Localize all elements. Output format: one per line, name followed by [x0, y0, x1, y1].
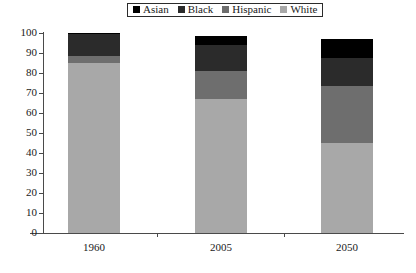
y-tick-label: 40 [7, 147, 37, 158]
x-tick-label-1960: 1960 [64, 242, 124, 253]
y-tick-label: 60 [7, 107, 37, 118]
y-tick-mark [39, 193, 43, 194]
x-tick-mark [157, 233, 158, 237]
legend-item-asian[interactable]: Asian [133, 4, 169, 15]
legend-label: Asian [143, 4, 169, 15]
bar-segment-1960-asian[interactable] [68, 33, 120, 34]
y-tick-mark [39, 73, 43, 74]
x-tick-mark [284, 233, 285, 237]
y-axis-line [43, 32, 44, 234]
legend-swatch-icon [178, 6, 185, 13]
bar-segment-2050-hispanic[interactable] [321, 86, 373, 143]
bar-group-2050[interactable] [321, 33, 373, 233]
bar-group-1960[interactable] [68, 33, 120, 233]
y-tick-label: 50 [7, 127, 37, 138]
y-tick-label: 20 [7, 187, 37, 198]
legend-label: Hispanic [232, 4, 271, 15]
legend-swatch-icon [222, 6, 229, 13]
x-tick-label-2050: 2050 [317, 242, 377, 253]
chart-legend: AsianBlackHispanicWhite [127, 3, 323, 17]
y-tick-mark [39, 93, 43, 94]
legend-label: White [290, 4, 317, 15]
bar-segment-2005-asian[interactable] [195, 36, 247, 45]
bar-segment-2050-asian[interactable] [321, 39, 373, 58]
legend-item-white[interactable]: White [280, 4, 317, 15]
y-tick-mark [39, 153, 43, 154]
y-tick-mark [39, 173, 43, 174]
y-tick-label: 30 [7, 167, 37, 178]
bar-segment-1960-white[interactable] [68, 63, 120, 233]
y-tick-label: 90 [7, 47, 37, 58]
y-tick-mark [39, 133, 43, 134]
x-tick-label-2005: 2005 [191, 242, 251, 253]
bar-segment-2005-white[interactable] [195, 99, 247, 233]
y-tick-mark [39, 33, 43, 34]
y-tick-label: 70 [7, 87, 37, 98]
y-tick-label: 80 [7, 67, 37, 78]
legend-swatch-icon [280, 6, 287, 13]
y-tick-mark [39, 233, 43, 234]
bar-segment-2005-black[interactable] [195, 45, 247, 71]
y-tick-label: 0 [7, 227, 37, 238]
y-tick-label: 100 [7, 27, 37, 38]
bar-segment-1960-hispanic[interactable] [68, 56, 120, 63]
y-tick-mark [39, 53, 43, 54]
bar-segment-2050-black[interactable] [321, 58, 373, 86]
bar-segment-1960-black[interactable] [68, 34, 120, 56]
legend-label: Black [188, 4, 214, 15]
y-tick-label: 10 [7, 207, 37, 218]
y-tick-mark [39, 113, 43, 114]
legend-item-hispanic[interactable]: Hispanic [222, 4, 271, 15]
bar-segment-2050-white[interactable] [321, 143, 373, 233]
x-axis-line [30, 233, 404, 234]
legend-item-black[interactable]: Black [178, 4, 214, 15]
legend-swatch-icon [133, 6, 140, 13]
y-tick-mark [39, 213, 43, 214]
bar-segment-2005-hispanic[interactable] [195, 71, 247, 99]
stacked-bar-chart: AsianBlackHispanicWhite 1009080706050403… [0, 0, 416, 273]
bar-group-2005[interactable] [195, 33, 247, 233]
